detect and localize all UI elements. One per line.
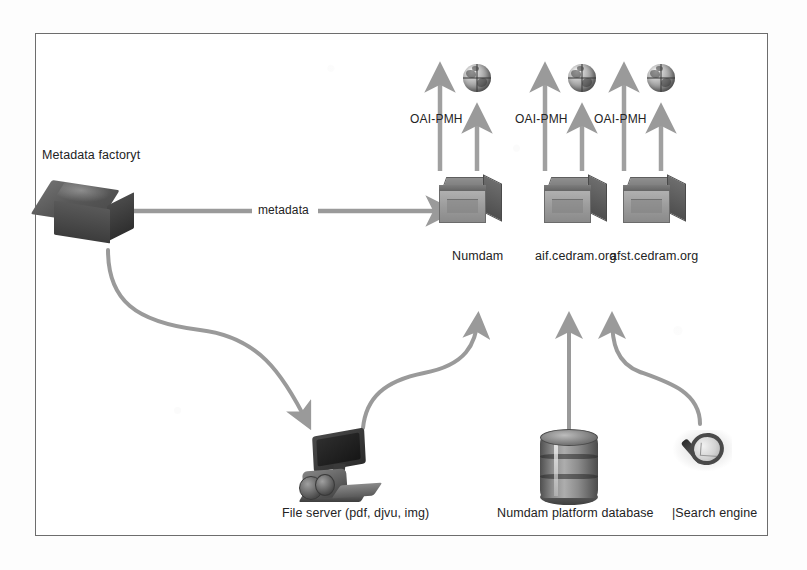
repository-label-aif: aif.cedram.org <box>535 249 616 263</box>
search-engine-label: |Search engine <box>672 506 757 520</box>
arrow-factory-to-fileserver <box>108 250 308 424</box>
arrow-fileserver-to-numdam <box>363 318 478 428</box>
repository-icon-numdam <box>437 173 505 231</box>
magnifier-icon <box>668 430 732 500</box>
metadata-factory-label: Metadata factoryt <box>42 148 140 162</box>
file-server-label: File server (pdf, djvu, img) <box>282 506 429 520</box>
repository-icon-afst <box>621 173 689 231</box>
metadata-factory-icon <box>52 180 142 246</box>
oai-pmh-label-aif: OAI-PMH <box>515 113 568 127</box>
globe-icon <box>463 64 491 92</box>
oai-pmh-label-numdam: OAI-PMH <box>410 113 463 127</box>
repository-label-numdam: Numdam <box>452 249 503 263</box>
diagram-canvas: Metadata factoryt metadata OAI-PMH Numda… <box>0 0 807 570</box>
repository-icon-aif <box>542 173 610 231</box>
metadata-flow-label: metadata <box>258 204 309 218</box>
globe-icon <box>647 64 675 92</box>
database-label: Numdam platform database <box>497 506 654 520</box>
globe-icon <box>568 64 596 92</box>
repository-label-afst: afst.cedram.org <box>610 249 698 263</box>
arrow-searchengine-to-numdam <box>612 318 700 424</box>
oai-pmh-label-afst: OAI-PMH <box>594 113 647 127</box>
database-barrel-icon <box>538 428 600 504</box>
file-server-icon <box>297 432 381 508</box>
